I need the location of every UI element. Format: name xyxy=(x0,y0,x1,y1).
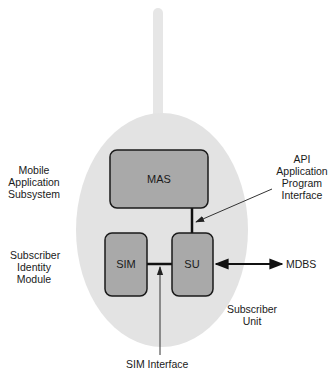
subscriber-identity-module-label: Subscriber Identity Module xyxy=(10,249,58,285)
mobile-application-subsystem-label: Mobile Application Subsystem xyxy=(8,164,60,200)
subscriber-device-ellipse xyxy=(76,113,248,347)
subscriber-unit-label: Subscriber Unit xyxy=(226,303,278,327)
sim-label: SIM xyxy=(116,258,136,270)
mdbs-label: MDBS xyxy=(286,258,316,270)
sim-box[interactable]: SIM xyxy=(105,233,147,296)
mas-label: MAS xyxy=(147,173,171,185)
mas-box[interactable]: MAS xyxy=(110,150,208,208)
api-label: API Application Program Interface xyxy=(274,153,330,201)
sim-interface-label: SIM Interface xyxy=(126,358,188,370)
su-label: SU xyxy=(184,258,199,270)
antenna xyxy=(153,8,163,120)
su-box[interactable]: SU xyxy=(172,233,213,296)
